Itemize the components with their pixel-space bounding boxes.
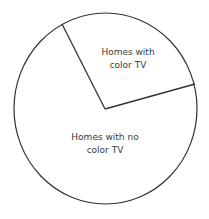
slice-color-tv-label-line1: Homes with: [101, 47, 154, 57]
slice-color-tv-label-line2: color TV: [110, 60, 148, 70]
slice-no-color-tv-label-line1: Homes with no: [71, 132, 139, 142]
pie-chart: Homes with color TV Homes with no color …: [0, 0, 209, 219]
slice-no-color-tv-label-line2: color TV: [87, 145, 125, 155]
